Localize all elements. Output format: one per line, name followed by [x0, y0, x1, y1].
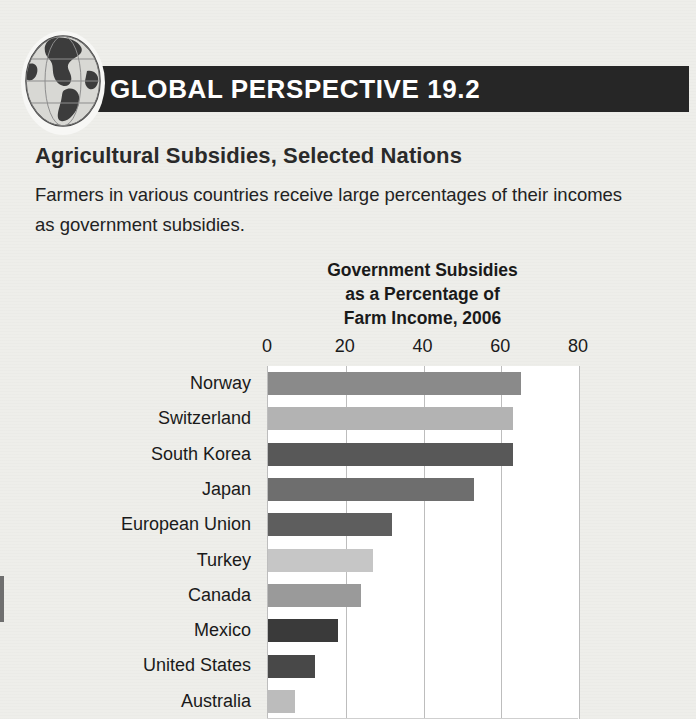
x-tick-label: 0 — [262, 336, 272, 357]
bar — [268, 619, 338, 642]
bar — [268, 584, 361, 607]
bar — [268, 443, 513, 466]
category-label: Australia — [181, 684, 251, 719]
category-label: South Korea — [151, 437, 251, 472]
bar-chart: Government Subsidies as a Percentage of … — [0, 0, 696, 719]
x-tick-label: 60 — [490, 336, 510, 357]
bar-row — [268, 366, 579, 401]
category-label: Mexico — [194, 613, 251, 648]
bar-row — [268, 401, 579, 436]
plot-area — [267, 366, 580, 719]
x-tick-label: 20 — [335, 336, 355, 357]
bar-row — [268, 578, 579, 613]
bar — [268, 513, 392, 536]
bar — [268, 407, 513, 430]
category-label: Japan — [202, 472, 251, 507]
x-tick-label: 80 — [568, 336, 588, 357]
category-label: European Union — [121, 507, 251, 542]
bar — [268, 690, 295, 713]
category-label: Norway — [190, 366, 251, 401]
bar — [268, 478, 474, 501]
category-label: Canada — [188, 578, 251, 613]
chart-title-line-3: Farm Income, 2006 — [267, 306, 578, 330]
chart-title-line-2: as a Percentage of — [267, 282, 578, 306]
bar-row — [268, 507, 579, 542]
bar-row — [268, 437, 579, 472]
bar-row — [268, 613, 579, 648]
bar — [268, 372, 521, 395]
bar-row — [268, 648, 579, 683]
chart-title: Government Subsidies as a Percentage of … — [267, 258, 578, 330]
x-tick-label: 40 — [412, 336, 432, 357]
bar-row — [268, 472, 579, 507]
bar-rows — [268, 366, 579, 719]
bar-row — [268, 542, 579, 577]
category-label: Switzerland — [158, 401, 251, 436]
bar-row — [268, 684, 579, 719]
category-label: Turkey — [197, 543, 251, 578]
bar — [268, 655, 315, 678]
x-axis-tick-labels: 020406080 — [0, 336, 696, 360]
bar — [268, 549, 373, 572]
y-axis-category-labels: NorwaySwitzerlandSouth KoreaJapanEuropea… — [0, 366, 259, 719]
chart-title-line-1: Government Subsidies — [267, 258, 578, 282]
category-label: United States — [143, 648, 251, 683]
